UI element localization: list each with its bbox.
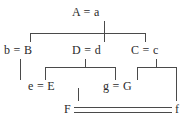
connector-f-equals bbox=[74, 107, 172, 113]
node-g: g = G bbox=[103, 80, 132, 92]
connector-d-bar bbox=[45, 67, 115, 68]
connector-to-d bbox=[104, 33, 105, 42]
connector-a-stem bbox=[104, 21, 105, 33]
node-d: D = d bbox=[72, 44, 101, 56]
node-a: A = a bbox=[72, 6, 100, 18]
connector-c-stem bbox=[156, 59, 157, 67]
node-f-left: F bbox=[64, 103, 71, 115]
connector-c-to-g bbox=[137, 67, 138, 80]
node-b: b = B bbox=[4, 44, 32, 56]
pedigree-diagram: A = a b = B D = d C = c e = E g = G F f bbox=[0, 0, 185, 122]
node-c: C = c bbox=[131, 44, 159, 56]
node-f-right: f bbox=[175, 103, 179, 115]
connector-d-stem bbox=[85, 59, 86, 67]
connector-level1-bar bbox=[30, 33, 146, 34]
connector-g-to-f bbox=[78, 88, 79, 101]
connector-to-b bbox=[30, 33, 31, 42]
connector-c-bar bbox=[137, 67, 176, 68]
connector-b-to-e bbox=[20, 59, 21, 80]
node-e: e = E bbox=[28, 80, 55, 92]
connector-to-c bbox=[145, 33, 146, 42]
connector-c-to-f-right bbox=[176, 67, 177, 101]
